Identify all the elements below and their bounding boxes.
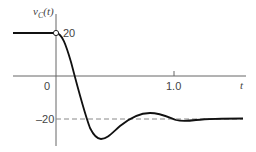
x-axis-label: t: [240, 80, 243, 91]
tick-label-neg20: –20: [36, 114, 54, 125]
tick-label-20: 20: [63, 28, 75, 39]
initial-value-marker: [53, 30, 58, 35]
tick-label-0: 0: [44, 81, 50, 92]
y-axis-label: vC(t): [33, 6, 54, 20]
tick-label-1: 1.0: [166, 81, 181, 92]
response-plot: [0, 0, 256, 152]
